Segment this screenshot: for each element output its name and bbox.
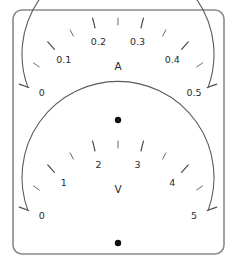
- scale-label: 4: [169, 177, 175, 188]
- scale-label: 0.1: [56, 54, 71, 65]
- unit-label-voltmeter: V: [114, 183, 122, 195]
- scale-label: 0.5: [187, 87, 202, 98]
- scale-label: 2: [95, 159, 101, 170]
- scale-label: 5: [191, 210, 197, 221]
- meter-drawing: 00.10.20.30.40.5A012345V: [0, 0, 237, 264]
- scale-label: 1: [61, 177, 67, 188]
- scale-label: 0.4: [165, 54, 180, 65]
- dual-analog-meter-faceplate: 00.10.20.30.40.5A012345V: [0, 0, 237, 264]
- pivot-dot-voltmeter: [115, 240, 121, 246]
- scale-label: 0: [39, 87, 45, 98]
- scale-label: 3: [135, 159, 141, 170]
- scale-label: 0.3: [130, 36, 145, 47]
- scale-label: 0.2: [91, 36, 106, 47]
- scale-label: 0: [39, 210, 45, 221]
- unit-label-ammeter: A: [114, 60, 122, 72]
- pivot-dot-ammeter: [115, 117, 121, 123]
